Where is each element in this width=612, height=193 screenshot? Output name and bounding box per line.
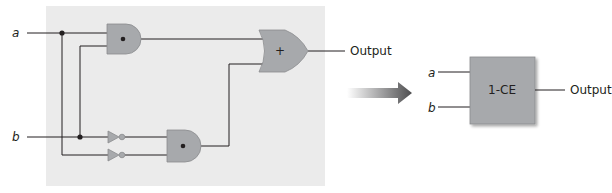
block-label: 1-CE [488, 83, 516, 97]
and-gate-1 [107, 24, 141, 54]
and-gate-2 [167, 130, 201, 162]
arrow-right-icon [347, 82, 412, 104]
circuit-output-label: Output [350, 44, 392, 58]
and-symbol-icon [121, 37, 126, 42]
block-input-a-label: a [428, 66, 435, 80]
block-output-label: Output [570, 83, 612, 97]
and-symbol-icon [181, 144, 186, 149]
junction-dot-a [59, 30, 64, 35]
input-b-label: b [12, 130, 20, 144]
junction-dot-b [77, 134, 82, 139]
input-a-label: a [12, 26, 19, 40]
circuit-diagram: a b + Output a b [0, 0, 612, 193]
or-symbol: + [275, 44, 285, 58]
block-input-b-label: b [428, 101, 436, 115]
